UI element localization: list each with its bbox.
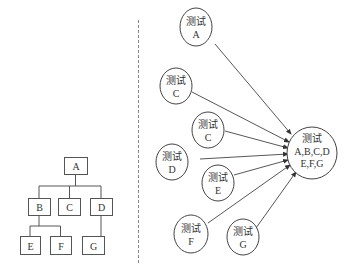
tree-node-d: D bbox=[91, 199, 113, 216]
graph-node-b: 测试 C bbox=[160, 68, 192, 104]
graph-target-label: E,F,G bbox=[300, 158, 323, 169]
graph-node-label: A bbox=[192, 29, 200, 40]
tree-node-label: A bbox=[72, 161, 80, 172]
graph-node-label: C bbox=[173, 88, 180, 99]
graph-node-label: G bbox=[239, 239, 246, 250]
diagram-canvas: A B C D E F G bbox=[0, 0, 344, 275]
graph-target-label: A,B,C,D bbox=[294, 146, 329, 157]
tree-node-c: C bbox=[59, 199, 81, 216]
graph-target-node: 测试 A,B,C,D E,F,G bbox=[287, 127, 337, 179]
graph-node-label: F bbox=[188, 236, 194, 247]
tree-node-label: D bbox=[98, 202, 105, 213]
tree-node-a: A bbox=[65, 158, 88, 175]
graph-node-label: 测试 bbox=[208, 171, 228, 183]
graph-node-label: D bbox=[168, 164, 175, 175]
graph-node-label: 测试 bbox=[162, 150, 182, 162]
tree-node-label: B bbox=[36, 202, 43, 213]
graph-node-c: 测试 C bbox=[192, 112, 224, 148]
graph-node-label: 测试 bbox=[186, 15, 206, 27]
tree-node-label: C bbox=[66, 202, 73, 213]
graph-node-d: 测试 D bbox=[156, 144, 188, 180]
tree-node-b: B bbox=[29, 199, 51, 216]
tree-node-f: F bbox=[51, 237, 72, 255]
tree-node-g: G bbox=[83, 237, 105, 255]
tree-node-label: F bbox=[58, 241, 64, 252]
graph-node-label: E bbox=[215, 185, 221, 196]
graph-node-label: 测试 bbox=[181, 222, 201, 234]
graph-node-label: C bbox=[205, 132, 212, 143]
hierarchy-tree: A B C D E F G bbox=[21, 158, 113, 255]
graph-node-f: 测试 F bbox=[174, 215, 208, 253]
graph-node-a: 测试 A bbox=[180, 8, 212, 46]
tree-node-e: E bbox=[21, 237, 41, 255]
graph-node-e: 测试 E bbox=[202, 165, 234, 201]
graph-node-label: 测试 bbox=[166, 74, 186, 86]
tree-node-label: E bbox=[27, 241, 33, 252]
graph-node-label: 测试 bbox=[233, 225, 253, 237]
graph-target-label: 测试 bbox=[302, 132, 322, 144]
graph-node-label: 测试 bbox=[198, 118, 218, 130]
tree-node-label: G bbox=[90, 241, 97, 252]
graph-node-g: 测试 G bbox=[227, 219, 259, 255]
